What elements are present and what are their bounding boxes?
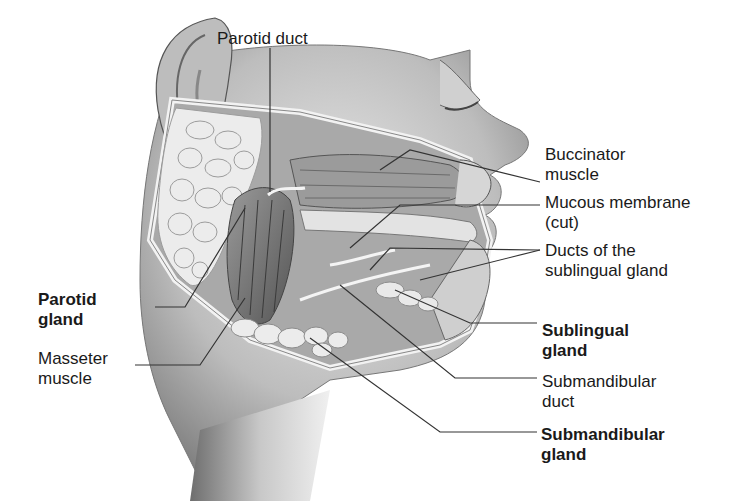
label-line: Submandibular (542, 372, 656, 392)
label-line: Ducts of the (545, 241, 668, 261)
label-line: Mucous membrane (545, 193, 691, 213)
label-line: gland (38, 310, 97, 330)
label-line: gland (542, 341, 629, 361)
label-line: gland (541, 445, 665, 465)
label-buccinator-muscle: Buccinator muscle (545, 145, 625, 185)
label-submandibular-gland: Submandibular gland (541, 425, 665, 465)
label-line: Sublingual (542, 321, 629, 341)
label-parotid-gland: Parotid gland (38, 290, 97, 330)
label-line: Buccinator (545, 145, 625, 165)
label-line: (cut) (545, 213, 691, 233)
label-line: Masseter (38, 349, 108, 369)
label-line: muscle (38, 369, 108, 389)
label-sublingual-gland: Sublingual gland (542, 321, 629, 361)
label-line: sublingual gland (545, 261, 668, 281)
label-submandibular-duct: Submandibular duct (542, 372, 656, 412)
label-line: Submandibular (541, 425, 665, 445)
label-parotid-duct: Parotid duct (217, 29, 308, 49)
label-line: duct (542, 392, 656, 412)
label-ducts-sublingual: Ducts of the sublingual gland (545, 241, 668, 281)
label-line: Parotid (38, 290, 97, 310)
label-masseter-muscle: Masseter muscle (38, 349, 108, 389)
label-line: muscle (545, 165, 625, 185)
label-mucous-membrane: Mucous membrane (cut) (545, 193, 691, 233)
